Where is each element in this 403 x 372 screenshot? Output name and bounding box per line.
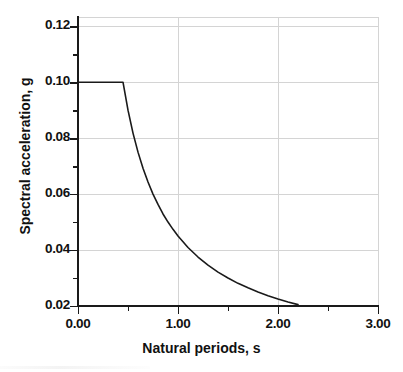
x-tick-mark — [278, 306, 279, 314]
x-tick-label: 2.00 — [248, 316, 308, 331]
gridline-vertical — [378, 17, 379, 306]
y-tick-label: 0.04 — [45, 241, 70, 256]
spectral-acceleration-chart: 0.120.100.080.060.040.02 0.001.002.003.0… — [0, 0, 403, 372]
x-tick-mark — [228, 306, 229, 311]
y-tick-mark — [73, 278, 78, 279]
x-tick-mark — [128, 306, 129, 311]
y-tick-label: 0.12 — [45, 17, 70, 32]
y-tick-mark — [73, 166, 78, 167]
y-axis-line — [77, 16, 79, 307]
x-tick-mark — [178, 306, 179, 314]
y-tick-mark — [70, 194, 78, 195]
x-tick-label: 3.00 — [348, 316, 403, 331]
y-tick-mark — [70, 26, 78, 27]
x-tick-label: 0.00 — [48, 316, 108, 331]
y-tick-label: 0.02 — [45, 297, 70, 312]
page-edge-artifact — [0, 366, 150, 369]
y-tick-mark — [73, 54, 78, 55]
y-tick-label: 0.08 — [45, 129, 70, 144]
y-tick-mark — [70, 250, 78, 251]
x-tick-mark — [328, 306, 329, 311]
y-tick-mark — [70, 82, 78, 83]
y-tick-label: 0.10 — [45, 73, 70, 88]
x-tick-label: 1.00 — [148, 316, 208, 331]
y-tick-mark — [70, 306, 78, 307]
x-axis-title: Natural periods, s — [0, 340, 403, 356]
x-tick-mark — [78, 306, 79, 314]
y-tick-mark — [73, 222, 78, 223]
y-tick-mark — [73, 110, 78, 111]
response-spectrum-curve — [78, 17, 378, 306]
y-tick-label: 0.06 — [45, 185, 70, 200]
y-tick-mark — [70, 138, 78, 139]
plot-area — [78, 17, 378, 306]
x-tick-mark — [378, 306, 379, 314]
y-axis-title: Spectral acceleration, g — [17, 36, 33, 276]
